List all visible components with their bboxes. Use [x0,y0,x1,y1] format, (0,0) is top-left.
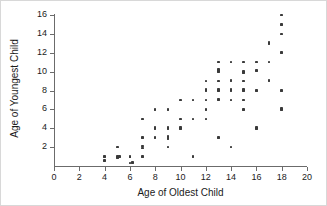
data-point [141,136,144,139]
data-point [167,146,170,149]
data-point [255,126,258,129]
data-point [116,146,119,149]
y-axis-tick-label: 6 [27,103,47,113]
x-axis-tick [206,167,207,171]
data-point [280,107,283,110]
y-axis-tick [50,91,54,92]
data-point [141,155,144,158]
y-axis-tick [50,147,54,148]
data-point [280,51,283,54]
y-axis-tick [50,53,54,54]
data-point [217,88,220,91]
data-point [205,99,208,102]
y-axis-tick [50,15,54,16]
y-axis-tick [50,128,54,129]
chart-plot-area: 02468101214161820246810121416 Age of Old… [1,1,327,206]
y-axis-tick [50,109,54,110]
data-point [179,118,182,121]
data-point [192,99,195,102]
data-point [192,155,195,158]
data-point [154,126,157,129]
x-axis-tick [130,167,131,171]
y-axis-tick-label: 16 [27,9,47,19]
data-point [103,155,106,158]
data-point [230,146,233,149]
x-axis-tick-label: 8 [145,172,165,182]
x-axis-tick-label: 4 [95,172,115,182]
y-axis-line [54,14,55,166]
data-point [154,108,157,111]
data-point [129,156,132,159]
x-axis-tick-label: 2 [69,172,89,182]
y-axis-tick-label: 12 [27,47,47,57]
data-point [217,61,220,64]
y-axis-tick-label: 2 [27,141,47,151]
data-point [268,41,271,44]
data-point [242,80,245,83]
y-axis-tick-label: 4 [27,122,47,132]
data-point [118,155,121,158]
data-point [230,99,233,102]
data-point [268,61,271,64]
y-axis-tick [50,72,54,73]
x-axis-tick [307,167,308,171]
scatter-plot-screenshot: 02468101214161820246810121416 Age of Old… [0,0,327,206]
data-point [205,118,208,121]
y-axis-tick-label: 14 [27,28,47,38]
data-point [217,99,220,102]
x-axis-tick-label: 12 [196,172,216,182]
data-point [242,61,245,64]
y-axis-tick-label: 8 [27,85,47,95]
data-point [167,137,170,140]
y-axis-tick [50,34,54,35]
y-axis-title: Age of Youngest Child [9,13,20,165]
data-point [280,33,283,36]
x-axis-tick-label: 14 [221,172,241,182]
x-axis-tick [231,167,232,171]
data-point [242,108,245,111]
data-point [192,118,195,121]
x-axis-tick [54,167,55,171]
data-point [217,70,220,73]
data-point [141,118,144,121]
data-point [242,99,245,102]
x-axis-tick [256,167,257,171]
x-axis-tick-label: 10 [171,172,191,182]
data-point [154,136,157,139]
data-point [230,80,233,83]
y-axis-tick-label: 10 [27,66,47,76]
data-point [230,61,233,64]
data-point [230,88,233,91]
x-axis-tick [155,167,156,171]
x-axis-tick [282,167,283,171]
data-point [217,136,220,139]
data-point [280,14,283,17]
data-point [205,108,208,111]
data-point [217,80,220,83]
x-axis-tick [79,167,80,171]
data-point [242,89,245,92]
data-point [205,80,208,83]
data-point [179,99,182,102]
x-axis-tick-label: 18 [272,172,292,182]
x-axis-tick [105,167,106,171]
data-point [255,61,258,64]
data-point [141,147,144,150]
data-point [179,126,182,129]
x-axis-tick-label: 20 [297,172,317,182]
x-axis-tick-label: 6 [120,172,140,182]
data-point [280,89,283,92]
x-axis-tick-label: 0 [44,172,64,182]
data-point [167,126,170,129]
data-point [242,71,245,74]
data-point [103,159,106,162]
x-axis-tick-label: 16 [246,172,266,182]
x-axis-title: Age of Oldest Child [54,187,307,198]
x-axis-tick [181,167,182,171]
data-point [131,161,134,164]
data-point [280,23,283,26]
data-point [167,108,170,111]
data-point [255,69,258,72]
data-point [255,89,258,92]
